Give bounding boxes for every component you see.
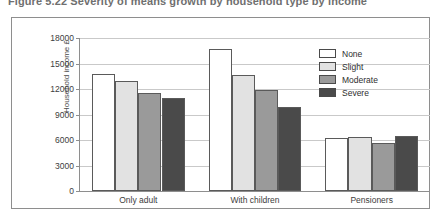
- y-tick-label: 15000: [50, 59, 74, 69]
- y-tick-label: 12000: [50, 84, 74, 94]
- legend-label: Moderate: [342, 75, 378, 85]
- legend-label: Slight: [342, 62, 363, 72]
- y-tick-mark: [76, 191, 80, 192]
- y-tick-label: 0: [69, 186, 74, 196]
- legend-swatch: [319, 75, 336, 84]
- legend-swatch: [319, 88, 336, 97]
- y-tick-label: 18000: [50, 33, 74, 43]
- bar: [325, 138, 348, 191]
- legend-label: Severe: [342, 88, 369, 98]
- plot-area: 0300060009000120001500018000 Only adultW…: [79, 38, 430, 192]
- bar: [278, 107, 301, 191]
- bar: [348, 137, 371, 191]
- legend-item: Moderate: [319, 73, 378, 86]
- bar: [115, 81, 138, 191]
- y-tick-label: 3000: [55, 161, 74, 171]
- bar: [209, 49, 232, 191]
- legend-item: None: [319, 47, 378, 60]
- bar: [255, 90, 278, 191]
- legend-item: Slight: [319, 60, 378, 73]
- bar: [372, 143, 395, 191]
- chart-legend: NoneSlightModerateSevere: [317, 45, 380, 101]
- legend-label: None: [342, 49, 362, 59]
- bar: [138, 93, 161, 191]
- y-tick-label: 6000: [55, 135, 74, 145]
- bar-group: [80, 38, 197, 191]
- bar-group: [197, 38, 314, 191]
- bar: [92, 74, 115, 191]
- bar: [162, 98, 185, 192]
- bar: [395, 136, 418, 191]
- y-tick-label: 9000: [55, 110, 74, 120]
- x-axis-category-label: Only adult: [119, 195, 157, 205]
- legend-item: Severe: [319, 86, 378, 99]
- figure-frame: Household income £ 030006000900012000150…: [11, 17, 430, 209]
- x-axis-category-label: With children: [230, 195, 279, 205]
- legend-swatch: [319, 49, 336, 58]
- figure-title: Figure 5.22 Severity of means growth by …: [8, 0, 438, 9]
- bar: [232, 75, 255, 191]
- x-axis-category-label: Pensioners: [350, 195, 393, 205]
- legend-swatch: [319, 62, 336, 71]
